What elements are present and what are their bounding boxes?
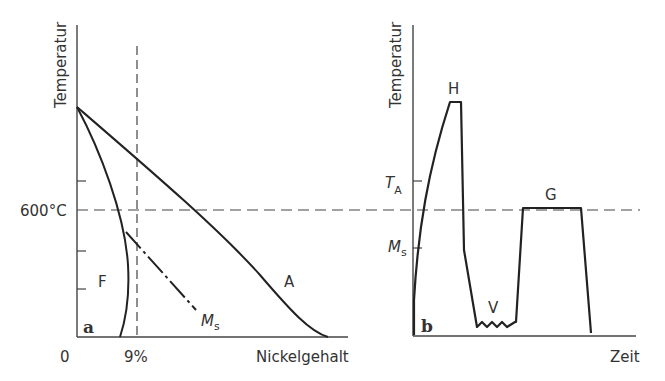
y-marker-600c: 600°C [20,202,67,220]
panel-a-y-label: Temperatur [52,21,70,109]
x-marker-9pct: 9% [124,348,148,366]
stage-v-label: V [488,299,499,317]
panel-a-letter: a [83,317,94,337]
panel-b-ms-label: Ms [388,238,407,259]
ta-label: TA [385,174,402,197]
heat-treatment-curve [414,102,591,335]
stage-g-label: G [545,186,557,204]
diagram-canvas: Temperatur 600°C 0 9% Nickelgehalt F A M… [0,0,665,381]
ferrite-boundary-curve [77,107,128,337]
region-f-label: F [98,273,107,291]
region-a-label: A [284,273,295,291]
panel-a-ms-label: Ms [201,312,220,333]
austenite-boundary-curve [77,107,328,337]
panel-b-x-label: Zeit [610,348,640,366]
panel-a-x-label: Nickelgehalt [256,348,349,366]
stage-h-label: H [448,80,459,98]
panel-b-y-label: Temperatur [387,21,405,109]
origin-label: 0 [60,348,70,366]
panel-b-letter: b [421,316,433,336]
